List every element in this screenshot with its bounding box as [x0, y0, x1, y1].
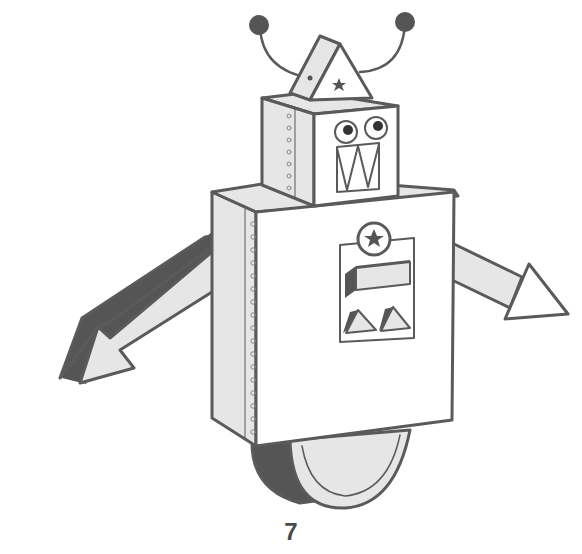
right-arm-arrow: [452, 243, 568, 319]
body: [212, 178, 458, 446]
right-antenna-ball-icon: [395, 12, 415, 32]
page-number: 7: [0, 518, 582, 546]
left-antenna-ball-icon: [249, 15, 269, 35]
robot-illustration: [0, 0, 582, 554]
hat: [290, 36, 372, 100]
